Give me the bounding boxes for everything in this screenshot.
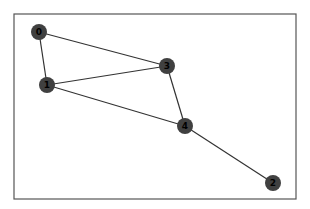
- node-layer: 01234: [31, 24, 281, 191]
- node-3: 3: [159, 58, 175, 74]
- node-0: 0: [31, 24, 47, 40]
- edge-1-4: [47, 85, 185, 126]
- node-1: 1: [39, 77, 55, 93]
- edge-1-3: [47, 66, 167, 85]
- plot-frame: [14, 14, 296, 199]
- node-4: 4: [177, 118, 193, 134]
- edge-layer: [39, 32, 273, 183]
- node-label: 0: [36, 27, 42, 37]
- node-label: 2: [270, 178, 276, 188]
- node-2: 2: [265, 175, 281, 191]
- edge-3-4: [167, 66, 185, 126]
- edge-0-3: [39, 32, 167, 66]
- edge-4-2: [185, 126, 273, 183]
- graph-figure: 01234: [0, 0, 310, 209]
- node-label: 4: [182, 121, 188, 131]
- edge-0-1: [39, 32, 47, 85]
- node-label: 1: [44, 80, 50, 90]
- node-label: 3: [164, 61, 170, 71]
